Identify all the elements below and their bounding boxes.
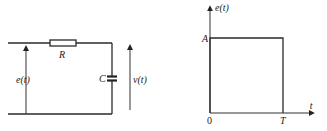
pulse-chart: e(t) t A 0 T [201, 2, 313, 126]
figure: R C e(t) v(t) e(t) t A 0 T [0, 0, 327, 131]
resistor-label: R [58, 49, 65, 60]
x-tick-label-T: T [280, 115, 287, 126]
source-voltage-label: e(t) [16, 74, 31, 86]
x-tick-label-origin: 0 [207, 115, 212, 126]
rc-circuit: R C e(t) v(t) [8, 40, 148, 114]
capacitor-label: C [99, 73, 106, 84]
resistor [50, 40, 76, 46]
y-tick-label: A [201, 33, 209, 44]
capacitor-voltage-label: v(t) [133, 74, 148, 86]
y-axis-label: e(t) [215, 2, 230, 14]
pulse-series-line [210, 38, 283, 113]
x-axis-label: t [310, 100, 313, 111]
